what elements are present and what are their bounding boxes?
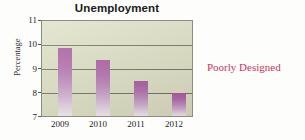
chart-title: Unemployment [41, 2, 193, 14]
bar-2009 [58, 48, 72, 116]
annotation-poorly-designed: Poorly Designed [207, 61, 281, 73]
x-tick-label-2010: 2010 [79, 119, 117, 129]
y-tick-label-11: 11 [17, 16, 37, 25]
bar-2012 [172, 93, 186, 116]
y-tick-label-8: 8 [17, 89, 37, 98]
gridline-10 [42, 45, 192, 46]
y-tick-label-7: 7 [17, 113, 37, 122]
plot-area [41, 20, 193, 117]
chart-figure: Unemployment Percentage 11 10 9 8 7 2009… [0, 0, 305, 140]
y-tick-label-9: 9 [17, 65, 37, 74]
x-tick-label-2012: 2012 [155, 119, 193, 129]
y-axis-tick-labels: 11 10 9 8 7 [14, 20, 37, 117]
y-tick-label-10: 10 [17, 40, 37, 49]
bar-2011 [134, 81, 148, 116]
x-tick-label-2009: 2009 [41, 119, 79, 129]
bar-2010 [96, 60, 110, 116]
x-tick-label-2011: 2011 [117, 119, 155, 129]
